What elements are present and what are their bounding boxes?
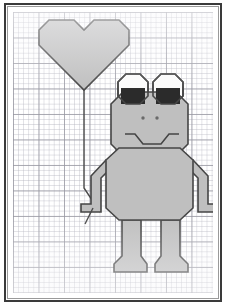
frog-right-leg — [155, 220, 188, 272]
frog-left-nostril — [141, 116, 144, 119]
frog-right-nostril — [155, 116, 158, 119]
heart-balloon — [39, 20, 129, 90]
frog-body — [106, 148, 193, 220]
graph-paper-sheet — [13, 12, 213, 293]
frog-left-leg — [114, 220, 147, 272]
artwork-frame — [0, 0, 226, 306]
frog-drawing — [13, 12, 213, 293]
